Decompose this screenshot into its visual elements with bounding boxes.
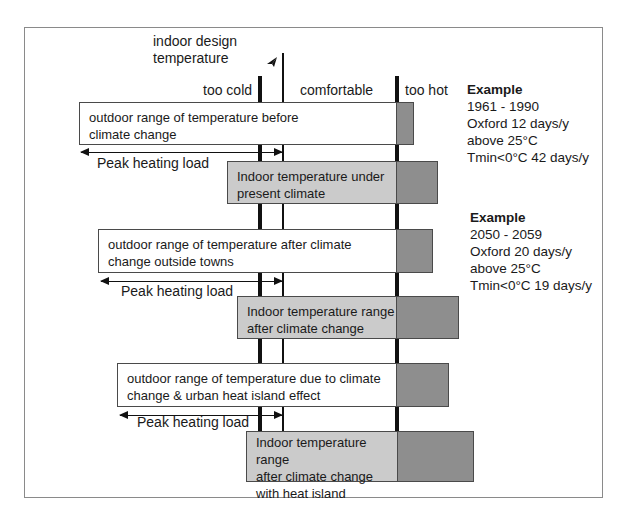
too-hot-segment [397, 432, 473, 481]
indoor-temperature-box-present-climate: Indoor temperature under present climate [227, 161, 438, 204]
outdoor-range-text: outdoor range of temperature before clim… [80, 103, 396, 144]
example-line: above 25°C [467, 132, 589, 149]
indoor-text-line: after climate change [247, 320, 396, 337]
outdoor-text-line: outdoor range of temperature before [89, 109, 396, 126]
example-title: Example [470, 209, 592, 226]
outdoor-range-text: outdoor range of temperature after clima… [99, 230, 396, 272]
example-line: 2050 - 2059 [470, 226, 592, 243]
indoor-text-line: Indoor temperature under [237, 168, 396, 185]
too-hot-segment [396, 297, 458, 338]
outdoor-text-line: outdoor range of temperature due to clim… [127, 370, 396, 387]
example-line: Oxford 20 days/y [470, 243, 592, 260]
peak-heating-load-arrow [81, 152, 282, 153]
too-cold-label: too cold [203, 82, 252, 99]
too-hot-segment [396, 364, 448, 406]
indoor-range-text: Indoor temperature under present climate [228, 162, 396, 203]
outdoor-text-line: change & urban heat island effect [127, 387, 396, 404]
indoor-temperature-box-after-climate-change: Indoor temperature range after climate c… [237, 296, 459, 339]
example-line: 1961 - 1990 [467, 98, 589, 115]
outdoor-text-line: climate change [89, 126, 396, 143]
indoor-text-line: after climate change [256, 468, 397, 485]
outdoor-text-line: outdoor range of temperature after clima… [108, 236, 396, 253]
indoor-text-line: with heat island [256, 485, 397, 502]
too-hot-segment [396, 162, 437, 203]
pointer-arrowhead-icon [265, 55, 279, 69]
example-line: Tmin<0°C 19 days/y [470, 277, 592, 294]
comfortable-label: comfortable [300, 82, 373, 99]
indoor-temperature-box-heat-island: Indoor temperature range after climate c… [246, 431, 474, 482]
too-hot-segment [396, 230, 432, 272]
outdoor-text-line: change outside towns [108, 253, 396, 270]
example-line: Tmin<0°C 42 days/y [467, 149, 589, 166]
outdoor-range-box-after-climate-change: outdoor range of temperature after clima… [98, 229, 433, 273]
too-hot-label: too hot [405, 82, 448, 99]
example-title: Example [467, 81, 589, 98]
indoor-range-text: Indoor temperature range after climate c… [238, 297, 396, 338]
peak-heating-load-label: Peak heating load [97, 155, 209, 172]
design-temperature-label: indoor design temperature [153, 33, 237, 67]
outdoor-range-box-heat-island: outdoor range of temperature due to clim… [117, 363, 449, 407]
indoor-range-text: Indoor temperature range after climate c… [247, 432, 397, 481]
peak-heating-load-label: Peak heating load [137, 414, 249, 431]
peak-heating-load-arrow [101, 281, 282, 282]
too-hot-segment [396, 103, 413, 144]
design-temperature-label-line2: temperature [153, 50, 237, 67]
example-1961-1990: Example 1961 - 1990 Oxford 12 days/y abo… [467, 81, 589, 166]
example-line: Oxford 12 days/y [467, 115, 589, 132]
outdoor-range-text: outdoor range of temperature due to clim… [118, 364, 396, 406]
indoor-text-line: Indoor temperature range [247, 303, 396, 320]
example-line: above 25°C [470, 260, 592, 277]
indoor-text-line: Indoor temperature range [256, 434, 397, 468]
example-2050-2059: Example 2050 - 2059 Oxford 20 days/y abo… [470, 209, 592, 294]
outdoor-range-box-before-climate-change: outdoor range of temperature before clim… [79, 102, 414, 145]
design-temperature-label-line1: indoor design [153, 33, 237, 50]
indoor-text-line: present climate [237, 185, 396, 202]
peak-heating-load-label: Peak heating load [121, 283, 233, 300]
